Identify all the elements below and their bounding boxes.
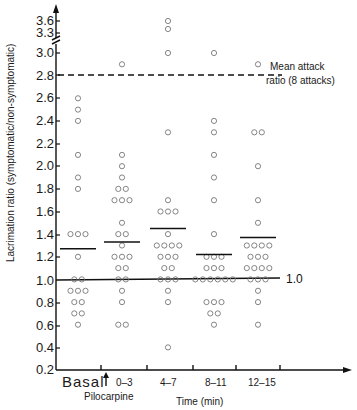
data-point — [119, 175, 124, 180]
data-point — [119, 164, 124, 169]
data-point — [119, 198, 124, 203]
data-point — [75, 152, 80, 157]
y-tick-label: 2.0 — [36, 158, 54, 173]
x-label-basal: Basal — [62, 373, 105, 390]
data-point — [211, 50, 216, 55]
data-point — [79, 300, 84, 305]
data-point — [208, 311, 213, 316]
data-point — [75, 118, 80, 123]
data-point — [83, 288, 88, 293]
data-point — [75, 186, 80, 191]
y-tick-label: 1.0 — [36, 273, 54, 288]
data-point — [119, 254, 124, 259]
lacrimation-chart: 3.6 3.3 3.0 2.8 2.6 2.4 2.2 2.0 1.8 1.6 … — [0, 0, 357, 410]
y-tick-label: 1.4 — [36, 227, 54, 242]
data-point — [255, 322, 260, 327]
data-point — [244, 266, 249, 271]
data-points — [68, 18, 272, 350]
data-point — [252, 130, 257, 135]
data-point — [123, 186, 128, 191]
x-label-12-15: 12–15 — [248, 377, 276, 388]
y-tick-label: 2.2 — [36, 136, 54, 151]
data-point — [119, 288, 124, 293]
data-point — [211, 300, 216, 305]
data-point — [119, 62, 124, 67]
data-point — [204, 266, 209, 271]
x-axis-arrow-icon — [343, 367, 352, 373]
data-point — [158, 209, 163, 214]
data-point — [119, 152, 124, 157]
y-tick-label: 2.8 — [36, 68, 54, 83]
data-point — [248, 254, 253, 259]
data-point — [165, 50, 170, 55]
data-point — [248, 277, 253, 282]
data-point — [259, 130, 264, 135]
x-axis-title: Time (min) — [176, 396, 223, 407]
ratio-one-line — [56, 278, 280, 280]
data-point — [165, 300, 170, 305]
y-tick-label: 3.0 — [36, 45, 54, 60]
data-point — [177, 243, 182, 248]
data-point — [252, 266, 257, 271]
x-axis — [56, 365, 352, 373]
data-point — [112, 254, 117, 259]
data-point — [79, 311, 84, 316]
data-point — [208, 277, 213, 282]
pilocarpine-label: Pilocarpine — [84, 391, 134, 402]
y-tick-label: 0.4 — [36, 340, 54, 355]
data-point — [204, 300, 209, 305]
data-point — [230, 277, 235, 282]
y-tick-label: 1.6 — [36, 204, 54, 219]
data-point — [165, 198, 170, 203]
data-point — [211, 130, 216, 135]
x-label-8-11: 8–11 — [205, 377, 227, 388]
data-point — [255, 288, 260, 293]
data-point — [255, 220, 260, 225]
data-point — [75, 96, 80, 101]
data-point — [123, 322, 128, 327]
data-point — [119, 300, 124, 305]
data-point — [127, 254, 132, 259]
data-point — [255, 62, 260, 67]
mean-attack-label-1: Mean attack — [270, 61, 325, 72]
data-point — [211, 232, 216, 237]
data-point — [200, 277, 205, 282]
data-point — [165, 209, 170, 214]
data-point — [259, 266, 264, 271]
data-point — [211, 118, 216, 123]
data-point — [68, 232, 73, 237]
data-point — [75, 232, 80, 237]
data-point — [162, 243, 167, 248]
data-point — [75, 322, 80, 327]
data-point — [165, 130, 170, 135]
data-point — [165, 254, 170, 259]
data-point — [263, 254, 268, 259]
data-point — [116, 266, 121, 271]
data-point — [165, 232, 170, 237]
data-point — [169, 243, 174, 248]
data-point — [116, 186, 121, 191]
y-tick-label: 1.2 — [36, 249, 54, 264]
data-point — [119, 220, 124, 225]
data-point — [252, 243, 257, 248]
data-point — [158, 254, 163, 259]
data-point — [211, 198, 216, 203]
data-point — [219, 266, 224, 271]
data-point — [255, 254, 260, 259]
data-point — [255, 164, 260, 169]
data-point — [165, 26, 170, 31]
data-point — [173, 254, 178, 259]
data-point — [223, 277, 228, 282]
data-point — [119, 243, 124, 248]
data-point — [255, 300, 260, 305]
y-tick-label: 0.2 — [36, 362, 54, 377]
y-axis-arrow-icon — [53, 4, 59, 13]
data-point — [154, 243, 159, 248]
data-point — [75, 175, 80, 180]
data-point — [165, 288, 170, 293]
data-point — [112, 198, 117, 203]
data-point — [173, 209, 178, 214]
data-point — [211, 322, 216, 327]
y-tick-label: 1.8 — [36, 181, 54, 196]
data-point — [244, 243, 249, 248]
